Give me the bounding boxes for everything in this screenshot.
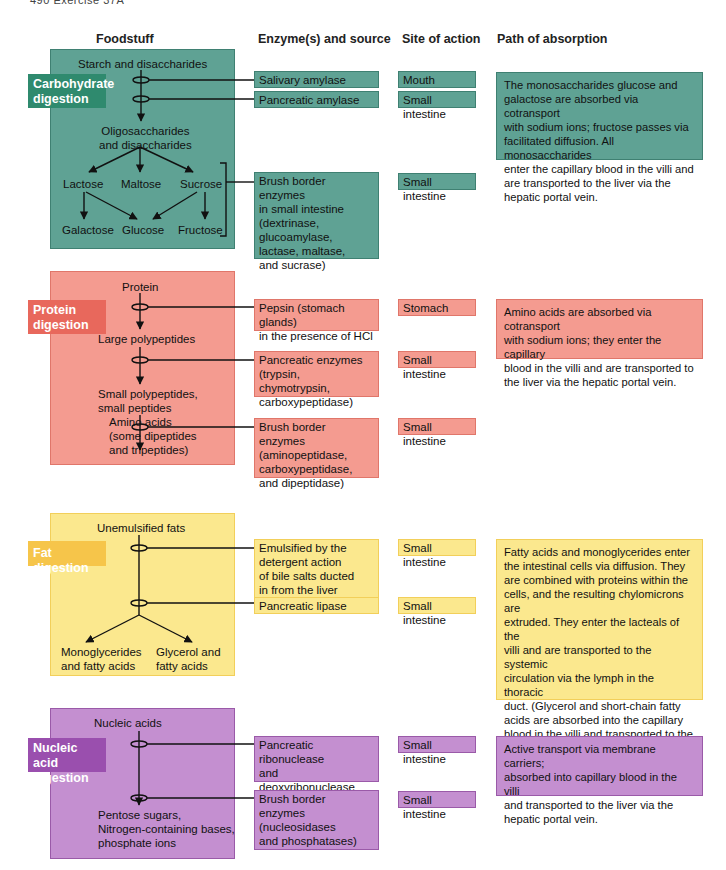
- enzyme-pancreatic-amylase: Pancreatic amylase: [254, 91, 379, 108]
- running-head: 490 Exercise 37A: [30, 0, 124, 6]
- line: Glycerol and: [156, 645, 221, 659]
- line: Oligosaccharides: [99, 124, 192, 138]
- line: in small intestine: [259, 202, 374, 216]
- fat-monoglycerides: Monoglycerides and fatty acids: [61, 645, 142, 673]
- enzyme-pancreatic-lipase: Pancreatic lipase: [254, 597, 379, 614]
- enzyme-brush-border-protein: Brush border enzymes (aminopeptidase, ca…: [254, 418, 379, 478]
- line: and tripeptides): [109, 443, 197, 457]
- enzyme-pepsin: Pepsin (stomach glands) in the presence …: [254, 299, 379, 331]
- line: The monosaccharides glucose and: [504, 78, 695, 92]
- line: circulation via the lymph in the thoraci…: [504, 671, 695, 699]
- line: phosphate ions: [98, 836, 235, 850]
- line: (trypsin, chymotrypsin,: [259, 367, 374, 395]
- line: Fatty acids and monoglycerides enter: [504, 545, 695, 559]
- line: hepatic portal vein.: [504, 190, 695, 204]
- line: Pancreatic: [259, 738, 374, 752]
- line: Pepsin (stomach glands): [259, 301, 374, 329]
- line: duct. (Glycerol and short-chain fatty: [504, 699, 695, 713]
- line: Pancreatic enzymes: [259, 353, 374, 367]
- site-small-intestine: Small intestine: [398, 351, 476, 368]
- enzyme-brush-border-carb: Brush border enzymes in small intestine …: [254, 172, 379, 259]
- line: enzymes: [259, 806, 374, 820]
- carb-galactose: Galactose: [62, 223, 114, 237]
- line: in from the liver: [259, 583, 374, 597]
- label-line: Nucleic acid: [33, 741, 101, 771]
- enzyme-bile-salts: Emulsified by the detergent action of bi…: [254, 539, 379, 599]
- nuc-products: Pentose sugars, Nitrogen-containing base…: [98, 808, 235, 850]
- line: Pentose sugars,: [98, 808, 235, 822]
- carb-sucrose: Sucrose: [180, 177, 222, 191]
- line: facilitated diffusion. All monosaccharid…: [504, 134, 695, 162]
- line: Small polypeptides,: [98, 387, 198, 401]
- site-small-intestine: Small intestine: [398, 791, 476, 808]
- line: hepatic portal vein.: [504, 812, 695, 826]
- enzyme-brush-border-nucleic: Brush border enzymes (nucleosidases and …: [254, 790, 379, 850]
- line: (some dipeptides: [109, 429, 197, 443]
- line: extruded. They enter the lacteals of the: [504, 615, 695, 643]
- label-line: digestion: [33, 92, 101, 107]
- enzyme-pancreatic-nuclease: Pancreatic ribonuclease and deoxyribonuc…: [254, 736, 379, 782]
- label-line: Carbohydrate: [33, 77, 101, 92]
- line: and phosphatases): [259, 834, 374, 848]
- line: galactose are absorbed via cotransport: [504, 92, 695, 120]
- line: Amino acids: [109, 415, 197, 429]
- line: the intestinal cells via diffusion. They: [504, 559, 695, 573]
- line: acids are absorbed into the capillary: [504, 713, 695, 727]
- line: Monoglycerides: [61, 645, 142, 659]
- line: and fatty acids: [61, 659, 142, 673]
- line: and sucrase): [259, 258, 374, 272]
- line: (nucleosidases: [259, 820, 374, 834]
- line: ribonuclease: [259, 752, 374, 766]
- absorption-nucleic: Active transport via membrane carriers; …: [496, 736, 703, 796]
- line: are transported to the liver via the: [504, 176, 695, 190]
- carbohydrate-digestion-label: Carbohydrate digestion: [28, 74, 106, 108]
- line: fatty acids: [156, 659, 221, 673]
- line: (dextrinase,: [259, 216, 374, 230]
- carb-starch: Starch and disaccharides: [78, 57, 207, 71]
- line: are combined with proteins within the: [504, 573, 695, 587]
- prot-large-polypeptides: Large polypeptides: [98, 332, 195, 346]
- line: with sodium ions; fructose passes via: [504, 120, 695, 134]
- absorption-protein: Amino acids are absorbed via cotransport…: [496, 299, 703, 359]
- label-line: Protein: [33, 303, 101, 318]
- nucleic-digestion-label: Nucleic acid digestion: [28, 738, 106, 772]
- fat-unemulsified: Unemulsified fats: [97, 521, 185, 535]
- line: carboxypeptidase,: [259, 462, 374, 476]
- label-line: digestion: [33, 771, 101, 786]
- site-mouth: Mouth: [398, 71, 476, 88]
- line: enter the capillary blood in the villi a…: [504, 162, 695, 176]
- site-small-intestine: Small intestine: [398, 539, 476, 556]
- line: in the presence of HCl: [259, 329, 374, 343]
- prot-small-polypeptides: Small polypeptides, small peptides: [98, 387, 198, 415]
- line: cells, and the resulting chylomicrons ar…: [504, 587, 695, 615]
- carb-maltose: Maltose: [121, 177, 161, 191]
- label-line: digestion: [33, 318, 101, 333]
- line: villi and are transported to the systemi…: [504, 643, 695, 671]
- line: glucoamylase,: [259, 230, 374, 244]
- site-small-intestine: Small intestine: [398, 173, 476, 190]
- column-header-absorption: Path of absorption: [497, 32, 607, 46]
- nuc-nucleic-acids: Nucleic acids: [94, 716, 162, 730]
- line: lactase, maltase,: [259, 244, 374, 258]
- carb-glucose: Glucose: [122, 223, 164, 237]
- line: and transported to the liver via the: [504, 798, 695, 812]
- absorption-carbohydrate: The monosaccharides glucose and galactos…: [496, 72, 703, 160]
- line: (aminopeptidase,: [259, 448, 374, 462]
- column-header-foodstuff: Foodstuff: [96, 32, 154, 46]
- line: absorbed into capillary blood in the vil…: [504, 770, 695, 798]
- site-small-intestine: Small intestine: [398, 736, 476, 753]
- prot-amino-acids: Amino acids (some dipeptides and tripept…: [109, 415, 197, 457]
- line: with sodium ions; they enter the capilla…: [504, 333, 695, 361]
- line: the liver via the hepatic portal vein.: [504, 375, 695, 389]
- line: Active transport via membrane carriers;: [504, 742, 695, 770]
- line: Amino acids are absorbed via cotransport: [504, 305, 695, 333]
- prot-protein: Protein: [122, 280, 158, 294]
- site-small-intestine: Small intestine: [398, 91, 476, 108]
- line: small peptides: [98, 401, 198, 415]
- line: and disaccharides: [99, 138, 192, 152]
- carb-oligosaccharides: Oligosaccharides and disaccharides: [99, 124, 192, 152]
- line: Emulsified by the: [259, 541, 374, 555]
- line: Nitrogen-containing bases,: [98, 822, 235, 836]
- line: Brush border enzymes: [259, 420, 374, 448]
- protein-digestion-label: Protein digestion: [28, 300, 106, 334]
